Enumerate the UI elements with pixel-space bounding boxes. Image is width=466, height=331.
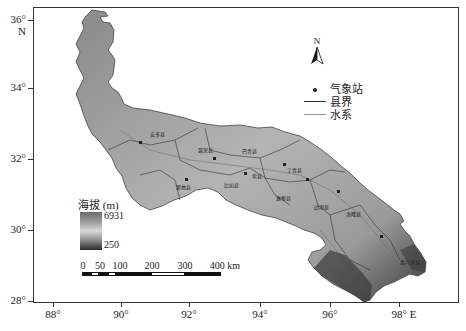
elevation-color-ramp [80, 212, 102, 250]
county-label: 索县 [252, 172, 262, 179]
study-area-map [0, 0, 466, 331]
map-legend: 气象站 县界 水系 [304, 80, 394, 140]
x-tick [121, 303, 122, 307]
y-tick-label: 34° [0, 81, 26, 93]
county-label: 那曲县 [176, 183, 191, 190]
x-tick-label: 90° [113, 308, 128, 320]
y-tick-label: 32° [0, 152, 26, 164]
county-label: 聂荣县 [198, 146, 213, 153]
x-tick [189, 303, 190, 307]
x-tick [260, 303, 261, 307]
y-tick-label: 36° N [0, 13, 26, 37]
x-tick-label: 88° [45, 308, 60, 320]
x-tick [399, 303, 400, 307]
x-tick-label: 98° E [392, 308, 417, 320]
north-arrow: N [310, 36, 324, 68]
scale-label: 300 [178, 260, 193, 271]
y-tick-label: 28° [0, 294, 26, 306]
county-label: 安多县 [150, 130, 165, 137]
scale-label: 200 [145, 260, 160, 271]
county-label: 洛隆县 [346, 210, 361, 217]
x-tick [53, 303, 54, 307]
scale-label: 100 [113, 260, 128, 271]
y-tick [28, 230, 33, 231]
x-tick-label: 92° [181, 308, 196, 320]
north-label: N [310, 36, 324, 46]
scale-label: 50 [95, 260, 105, 271]
y-tick-label: 30° [0, 223, 26, 235]
county-label: 巴青县 [242, 147, 257, 154]
river-line-icon [304, 114, 326, 115]
county-label: 边坝县 [314, 203, 329, 210]
x-tick [330, 303, 331, 307]
y-tick [28, 301, 33, 302]
county-label: 类乌齐县 [400, 258, 420, 265]
region-outline [76, 10, 426, 302]
boundary-line-icon [304, 101, 326, 102]
elevation-max-label: 6931 [104, 210, 124, 221]
y-tick [28, 159, 33, 160]
scale-label: 0 [81, 260, 86, 271]
legend-label: 水系 [330, 106, 352, 122]
x-tick-label: 94° [252, 308, 267, 320]
county-label: 嘉黎县 [276, 194, 291, 201]
county-label: 丁青县 [287, 166, 302, 173]
y-tick [28, 88, 33, 89]
elevation-min-label: 250 [104, 239, 119, 250]
legend-item-river: 水系 [304, 106, 352, 122]
x-tick-label: 96° [322, 308, 337, 320]
scale-label: 400 km [210, 260, 240, 271]
county-label: 比如县 [224, 181, 239, 188]
y-tick [28, 20, 33, 21]
north-arrow-icon [310, 46, 324, 66]
